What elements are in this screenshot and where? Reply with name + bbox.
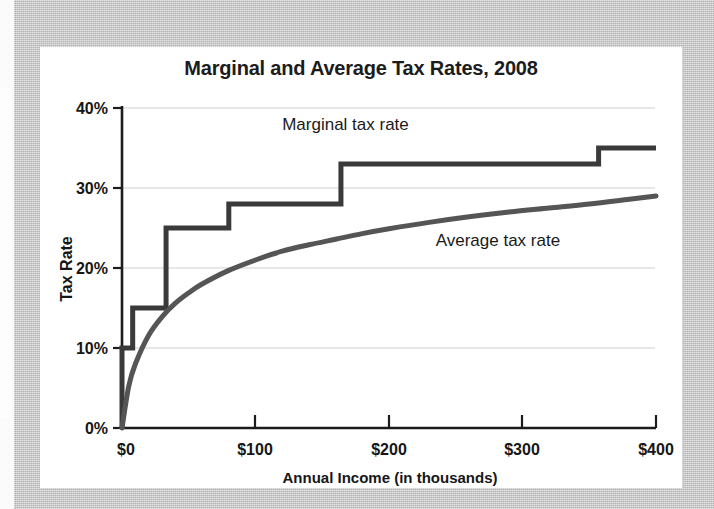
annotation-marginal-tax-rate: Marginal tax rate — [282, 115, 409, 134]
page-edge-inner-strip — [0, 88, 10, 418]
chart-plot-area: 40% 30% 20% 10% 0% $0 $100 $200 $300 $40… — [40, 47, 682, 488]
x-tick-label-200: $200 — [371, 441, 407, 458]
y-tick-label-10: 10% — [76, 340, 108, 357]
y-tick-label-30: 30% — [76, 180, 108, 197]
average-tax-rate-curve — [122, 196, 656, 428]
chart-card: Marginal and Average Tax Rates, 2008 — [40, 47, 682, 488]
annotation-average-tax-rate: Average tax rate — [436, 231, 560, 250]
x-tick-label-400: $400 — [638, 441, 674, 458]
x-tick-label-300: $300 — [504, 441, 540, 458]
x-axis-title: Annual Income (in thousands) — [282, 469, 497, 486]
y-axis-title: Tax Rate — [58, 236, 75, 302]
marginal-tax-rate-line — [122, 148, 656, 428]
tax-rate-chart-svg: 40% 30% 20% 10% 0% $0 $100 $200 $300 $40… — [40, 47, 682, 488]
x-tick-label-0: $0 — [117, 441, 135, 458]
y-tick-label-40: 40% — [76, 100, 108, 117]
x-axis-ticks — [122, 415, 656, 428]
y-tick-label-0: 0% — [85, 420, 108, 437]
x-tick-label-100: $100 — [237, 441, 273, 458]
axis-lines — [122, 106, 656, 428]
y-tick-label-20: 20% — [76, 260, 108, 277]
